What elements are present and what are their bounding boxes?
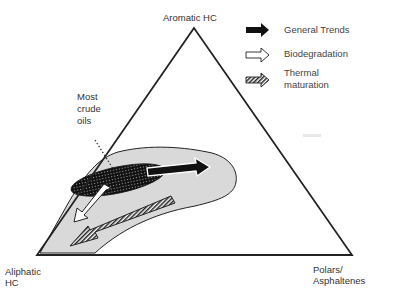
annotation-most-crude-oils: Most crude oils xyxy=(77,91,101,127)
legend-thermal-line1: Thermal xyxy=(284,67,329,79)
legend-label-biodegradation: Biodegradation xyxy=(284,48,348,60)
legend-icon-general-trends xyxy=(246,23,269,37)
vertex-label-polars-line1: Polars/ xyxy=(313,264,365,275)
legend-thermal-line2: maturation xyxy=(284,79,329,91)
annotation-line2: crude xyxy=(77,103,101,115)
legend-icon-biodegradation xyxy=(246,48,269,62)
vertex-label-polars-line2: Asphaltenes xyxy=(313,275,365,286)
legend-label-thermal-maturation: Thermal maturation xyxy=(284,67,329,91)
legend-label-general-trends: General Trends xyxy=(284,24,349,36)
annotation-line3: oils xyxy=(77,115,101,127)
scan-smudge xyxy=(303,134,321,137)
oil-composition-field xyxy=(40,147,236,253)
vertex-label-aliphatic-line2: HC xyxy=(5,277,41,288)
annotation-line1: Most xyxy=(77,91,101,103)
legend-icon-thermal-maturation xyxy=(246,73,269,87)
vertex-label-aromatic: Aromatic HC xyxy=(163,12,217,23)
vertex-label-aliphatic-line1: Aliphatic xyxy=(5,266,41,277)
vertex-label-polars: Polars/ Asphaltenes xyxy=(313,264,365,286)
vertex-label-aliphatic: Aliphatic HC xyxy=(5,266,41,288)
ternary-diagram xyxy=(0,0,394,302)
